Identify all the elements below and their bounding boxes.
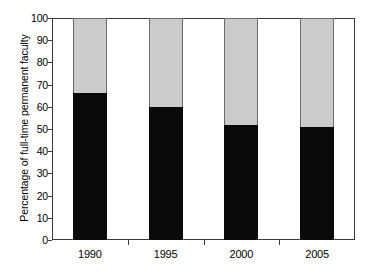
- y-axis-tick-label: 10: [26, 212, 48, 224]
- bar-segment-lower[interactable]: [149, 107, 183, 240]
- y-axis-tick-label: 40: [26, 145, 48, 157]
- chart-container: Percentage of full-time permanent facult…: [0, 0, 371, 273]
- x-axis-tick-label: 2000: [217, 247, 265, 261]
- y-axis-tick-labels: 0102030405060708090100: [22, 18, 48, 240]
- bar-group[interactable]: [149, 18, 183, 240]
- y-axis-tick-label: 90: [26, 34, 48, 46]
- bars-layer: [52, 18, 355, 240]
- x-axis-tick-label: 1995: [142, 247, 190, 261]
- bar-group[interactable]: [300, 18, 334, 240]
- bar-segment-lower[interactable]: [300, 127, 334, 240]
- x-axis-tick-marks: [52, 240, 355, 246]
- bar-segment-upper[interactable]: [300, 18, 334, 127]
- x-axis-tick-mark: [128, 240, 129, 245]
- y-axis-tick-label: 100: [26, 12, 48, 24]
- y-axis-tick-label: 20: [26, 190, 48, 202]
- y-axis-tick-label: 30: [26, 167, 48, 179]
- x-axis-tick-mark: [279, 240, 280, 245]
- bar-segment-upper[interactable]: [224, 18, 258, 125]
- x-axis-tick-label: 1990: [66, 247, 114, 261]
- x-axis-tick-mark: [204, 240, 205, 245]
- bar-segment-upper[interactable]: [149, 18, 183, 107]
- y-axis-tick-label: 0: [26, 234, 48, 246]
- bar-segment-lower[interactable]: [224, 125, 258, 240]
- bar-segment-lower[interactable]: [73, 93, 107, 240]
- y-axis-tick-label: 70: [26, 79, 48, 91]
- y-axis-tick-label: 60: [26, 101, 48, 113]
- x-axis-tick-labels: 1990199520002005: [52, 247, 355, 263]
- bar-group[interactable]: [73, 18, 107, 240]
- bar-group[interactable]: [224, 18, 258, 240]
- y-axis-tick-label: 50: [26, 123, 48, 135]
- x-axis-tick-label: 2005: [293, 247, 341, 261]
- y-axis-tick-label: 80: [26, 56, 48, 68]
- bar-segment-upper[interactable]: [73, 18, 107, 93]
